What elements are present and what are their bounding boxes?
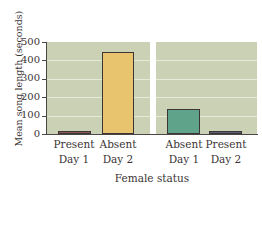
y-tick-label-300: 300: [12, 73, 40, 83]
y-tick-label-400: 400: [12, 55, 40, 65]
x-label-status: Present: [52, 138, 96, 151]
y-tick-label-200: 200: [12, 92, 40, 102]
gridline: [47, 79, 150, 80]
gridline: [156, 79, 257, 80]
x-label-status: Present: [204, 138, 248, 151]
x-axis-line: [46, 134, 258, 135]
bar-absent-day1: [167, 109, 200, 134]
y-tick: [42, 79, 46, 80]
plot-panel-left: [47, 42, 150, 134]
y-tick-label-500: 500: [12, 37, 40, 47]
x-label-day: Day 1: [52, 153, 96, 166]
x-label-status: Absent: [96, 138, 140, 151]
y-tick: [42, 60, 46, 61]
x-label-status: Absent: [162, 138, 206, 151]
y-tick: [42, 134, 46, 135]
y-tick: [42, 42, 46, 43]
x-label-day: Day 1: [162, 153, 206, 166]
y-tick: [42, 116, 46, 117]
x-label-day: Day 2: [204, 153, 248, 166]
x-label-day: Day 2: [96, 153, 140, 166]
y-tick-label-100: 100: [12, 110, 40, 120]
y-tick-label-0: 0: [12, 129, 40, 139]
gridline: [47, 97, 150, 98]
plot-panel-right: [156, 42, 257, 134]
gridline: [47, 116, 150, 117]
gridline: [47, 60, 150, 61]
gridline: [156, 60, 257, 61]
gridline: [156, 97, 257, 98]
bar-absent-day2: [102, 52, 134, 134]
x-axis-title: Female status: [47, 172, 257, 184]
y-tick: [42, 97, 46, 98]
y-axis-line: [46, 42, 47, 135]
